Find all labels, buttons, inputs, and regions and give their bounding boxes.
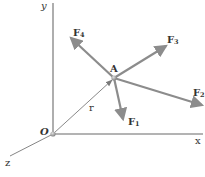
position-vector-r xyxy=(54,80,112,133)
force-label-f3: F3 xyxy=(167,35,179,46)
y-axis-label: y xyxy=(41,1,47,11)
force-diagram xyxy=(0,0,205,177)
origin-marker xyxy=(50,131,55,136)
z-axis-label: z xyxy=(5,158,10,168)
force-vector-f4 xyxy=(71,38,114,78)
force-vector-f2 xyxy=(114,78,202,105)
z-axis xyxy=(10,134,53,156)
force-label-f4: F4 xyxy=(73,28,85,39)
force-label-f2: F2 xyxy=(193,88,205,99)
force-label-f1: F1 xyxy=(128,117,140,128)
x-axis-label: x xyxy=(195,136,201,146)
point-a-marker xyxy=(111,75,116,80)
position-vector-label: r xyxy=(89,103,94,113)
origin-label: O xyxy=(40,127,49,137)
point-a-label: A xyxy=(110,64,118,74)
force-vector-f3 xyxy=(114,46,166,78)
force-vector-f1 xyxy=(114,78,123,119)
